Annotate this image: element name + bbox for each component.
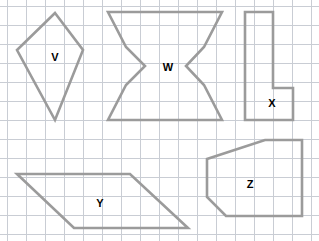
shape-label-w: W bbox=[163, 62, 173, 73]
shape-label-v: V bbox=[51, 52, 58, 63]
shape-label-z: Z bbox=[247, 179, 254, 190]
shape-z-outline[interactable] bbox=[207, 140, 302, 216]
shape-label-y: Y bbox=[96, 198, 103, 209]
shape-v-outline[interactable] bbox=[17, 13, 83, 120]
worksheet-canvas: V W X Y Z bbox=[0, 0, 319, 241]
shapes-layer bbox=[0, 0, 319, 241]
shape-label-x: X bbox=[268, 98, 275, 109]
